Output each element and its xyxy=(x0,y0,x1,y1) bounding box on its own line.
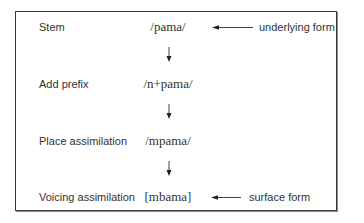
arrows-layer xyxy=(0,0,364,223)
left-arrow-icon xyxy=(211,195,241,199)
down-arrow-icon xyxy=(167,161,172,176)
left-arrow-icon xyxy=(212,25,253,29)
down-arrow-icon xyxy=(167,47,172,62)
down-arrow-icon xyxy=(167,104,172,119)
